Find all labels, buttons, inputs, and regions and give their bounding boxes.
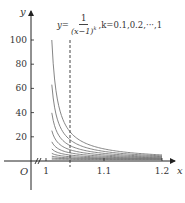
curve-k=0.9 xyxy=(52,85,162,156)
x-tick-label: 1 xyxy=(43,166,49,176)
formula-suffix: ,k=0.1,0.2,···,1 xyxy=(99,20,163,30)
formula-fraction: 1 (x−1)k xyxy=(71,14,97,35)
curve-k=0.1 xyxy=(52,159,162,160)
y-tick-label: 100 xyxy=(10,35,27,45)
formula-annotation: y= 1 (x−1)k ,k=0.1,0.2,···,1 xyxy=(57,14,162,35)
y-tick-label: 40 xyxy=(16,108,28,118)
formula-denominator: (x−1)k xyxy=(71,25,97,36)
x-tick-label: 1.1 xyxy=(97,166,111,176)
y-ticks: 20406080100 xyxy=(10,35,34,142)
origin-label: O xyxy=(20,166,28,177)
y-tick-label: 80 xyxy=(16,59,28,69)
curves xyxy=(52,40,162,160)
x-axis-label: x xyxy=(177,165,183,176)
y-tick-label: 60 xyxy=(16,83,28,93)
y-tick-label: 20 xyxy=(16,132,28,142)
x-tick-label: 1.2 xyxy=(155,166,169,176)
curve-k=0.8 xyxy=(52,113,162,157)
formula-numerator: 1 xyxy=(79,14,88,25)
formula-lhs: y= xyxy=(57,20,69,30)
y-axis-label: y xyxy=(19,6,26,17)
